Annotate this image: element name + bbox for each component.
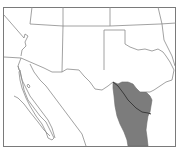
- map-canvas: [0, 0, 179, 151]
- range-map: [0, 0, 179, 151]
- map-frame: [4, 8, 176, 147]
